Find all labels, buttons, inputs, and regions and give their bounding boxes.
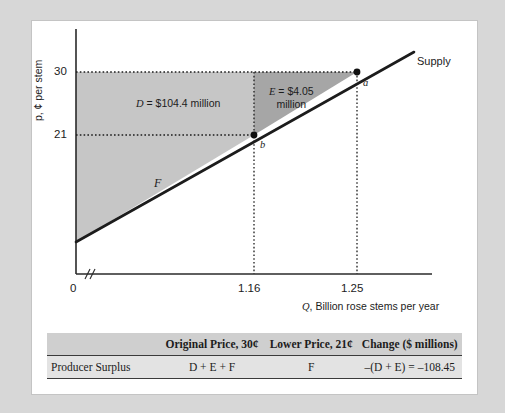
origin-label: 0: [70, 282, 76, 295]
table-header-row: Original Price, 30¢ Lower Price, 21¢ Cha…: [47, 333, 462, 356]
x-axis-title-rest: , Billion rose stems per year: [310, 300, 440, 312]
cell-change: –(D + E) = –108.45: [358, 356, 462, 379]
producer-surplus-table: Original Price, 30¢ Lower Price, 21¢ Cha…: [47, 333, 462, 379]
supply-curve-label: Supply: [417, 55, 451, 68]
x-tick-label-125: 1.25: [341, 282, 363, 295]
region-e-line2: million: [269, 98, 314, 110]
cell-lower-price: F: [265, 356, 358, 379]
figure-card: p, ¢ per stem 30 21 0 1.16 1.25 Q, Billi…: [31, 20, 478, 395]
region-e-line1: E = $4.05: [269, 85, 314, 98]
region-f-label: F: [154, 177, 161, 191]
cell-original-price: D + E + F: [159, 356, 265, 379]
point-b-marker: [251, 132, 258, 139]
table-header-lower-price: Lower Price, 21¢: [265, 333, 358, 356]
point-b-label: b: [260, 139, 265, 151]
table-header-blank: [47, 333, 159, 356]
region-d-label: D = $104.4 million: [136, 97, 220, 110]
region-e-value: = $4.05: [275, 85, 313, 97]
chart-plot-area: p, ¢ per stem 30 21 0 1.16 1.25 Q, Billi…: [32, 21, 479, 321]
region-d-value: = $104.4 million: [144, 97, 221, 109]
region-e-label: E = $4.05 million: [269, 85, 314, 110]
table-header: Original Price, 30¢ Lower Price, 21¢ Cha…: [47, 333, 462, 356]
chart-graphic: [32, 21, 479, 321]
table-header-change: Change ($ millions): [358, 333, 462, 356]
x-tick-label-116: 1.16: [238, 282, 260, 295]
point-a-label: a: [363, 77, 368, 89]
table-body: Producer Surplus D + E + F F –(D + E) = …: [47, 356, 462, 379]
point-a-marker: [354, 69, 361, 76]
y-tick-label-30: 30: [54, 65, 67, 78]
row-label-producer-surplus: Producer Surplus: [47, 356, 159, 379]
x-axis-title-symbol: Q: [302, 301, 310, 312]
x-axis-title: Q, Billion rose stems per year: [302, 300, 439, 313]
y-axis-title: p, ¢ per stem: [32, 60, 44, 121]
y-tick-label-21: 21: [54, 128, 67, 141]
table-row: Producer Surplus D + E + F F –(D + E) = …: [47, 356, 462, 379]
region-d-symbol: D: [136, 98, 144, 109]
table-header-original-price: Original Price, 30¢: [159, 333, 265, 356]
